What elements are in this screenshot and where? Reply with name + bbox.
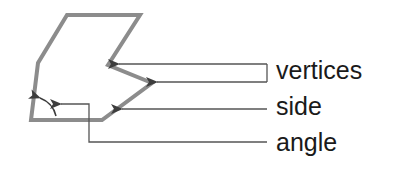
diagram-graphic: [0, 0, 402, 169]
label-vertices: vertices: [276, 58, 362, 83]
angle-arrow: [61, 104, 267, 142]
angle-arc-icon: [40, 98, 56, 116]
label-side: side: [276, 94, 322, 119]
polygon-diagram: vertices side angle: [0, 0, 402, 169]
label-angle: angle: [276, 130, 337, 155]
